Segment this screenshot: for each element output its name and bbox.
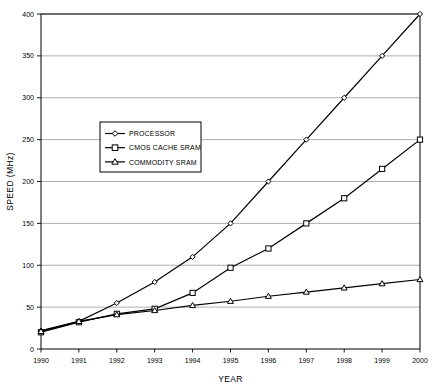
x-tick-label: 1995	[223, 357, 239, 364]
x-tick-label: 1999	[374, 357, 390, 364]
y-tick-label: 250	[22, 136, 34, 143]
x-tick-label: 1997	[299, 357, 315, 364]
y-tick-label: 400	[22, 11, 34, 18]
data-point-marker	[417, 137, 422, 142]
y-tick-label: 150	[22, 220, 34, 227]
data-point-marker	[112, 145, 118, 151]
data-point-marker	[266, 246, 271, 251]
x-tick-label: 1994	[185, 357, 201, 364]
x-tick-label: 1990	[33, 357, 49, 364]
y-tick-label: 200	[22, 178, 34, 185]
x-tick-label: 1996	[261, 357, 277, 364]
data-point-marker	[417, 276, 423, 281]
data-point-marker	[114, 300, 119, 305]
data-point-marker	[228, 265, 233, 270]
y-tick-label: 50	[26, 304, 34, 311]
series-line	[41, 279, 420, 331]
x-tick-label: 1992	[109, 357, 125, 364]
x-tick-label: 1991	[71, 357, 87, 364]
y-tick-label: 300	[22, 94, 34, 101]
x-tick-label: 1998	[336, 357, 352, 364]
data-point-marker	[342, 196, 347, 201]
y-tick-label: 350	[22, 52, 34, 59]
legend-label: COMMODITY SRAM	[129, 159, 197, 166]
x-axis-title: YEAR	[218, 374, 243, 384]
legend-label: CMOS CACHE SRAM	[129, 144, 201, 151]
x-tick-label: 2000	[412, 357, 428, 364]
data-point-marker	[190, 290, 195, 295]
line-chart: 0501001502002503003504001990199119921993…	[0, 0, 446, 392]
chart-container: 0501001502002503003504001990199119921993…	[0, 0, 446, 392]
series-line	[41, 14, 420, 331]
y-axis-title: SPEED (MHz)	[5, 152, 15, 211]
y-tick-label: 0	[30, 346, 34, 353]
y-tick-label: 100	[22, 262, 34, 269]
x-tick-label: 1993	[147, 357, 163, 364]
legend-label: PROCESSOR	[129, 130, 175, 137]
data-point-marker	[304, 221, 309, 226]
data-point-marker	[380, 166, 385, 171]
